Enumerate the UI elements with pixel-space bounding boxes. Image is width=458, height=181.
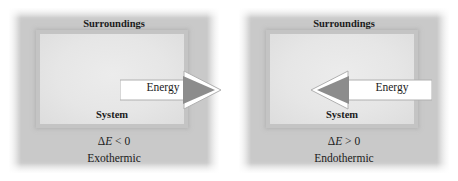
process-label-endothermic: Endothermic xyxy=(239,153,449,165)
delta-e-label-endothermic: ΔE > 0 xyxy=(239,136,449,148)
delta-variable-endothermic: E xyxy=(335,135,342,147)
panels-container: Surroundings System ΔE < 0 Exothermic En… xyxy=(0,0,458,181)
process-label-exothermic: Exothermic xyxy=(9,153,219,165)
system-label-endothermic: System xyxy=(266,110,418,121)
surroundings-label-endothermic: Surroundings xyxy=(239,19,449,30)
delta-variable-exothermic: E xyxy=(105,135,112,147)
energy-arrow-label-endothermic: Energy xyxy=(368,81,416,93)
delta-relation-endothermic: > 0 xyxy=(345,135,360,147)
surroundings-label-exothermic: Surroundings xyxy=(9,19,219,30)
delta-relation-exothermic: < 0 xyxy=(115,135,130,147)
delta-e-label-exothermic: ΔE < 0 xyxy=(9,136,219,148)
energy-arrow-label-exothermic: Energy xyxy=(139,81,187,93)
system-label-exothermic: System xyxy=(36,110,188,121)
energy-flow-diagram: Surroundings System ΔE < 0 Exothermic En… xyxy=(0,0,458,181)
